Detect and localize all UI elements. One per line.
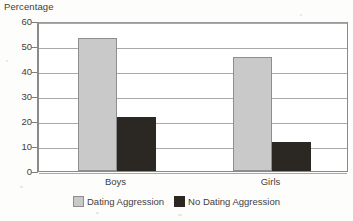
x-axis-label-girls: Girls — [261, 176, 281, 188]
plot-area — [38, 22, 348, 172]
gridline — [39, 23, 347, 24]
bar-boys-dating-aggression — [78, 38, 117, 172]
y-axis-tick-marks — [0, 22, 38, 172]
chart-legend: Dating AggressionNo Dating Aggression — [0, 196, 353, 207]
scan-speck — [178, 214, 182, 216]
legend-swatch-icon — [73, 196, 84, 207]
legend-label: Dating Aggression — [87, 196, 164, 207]
x-axis-label-boys: Boys — [105, 176, 126, 188]
bar-girls-dating-aggression — [233, 57, 272, 171]
legend-label: No Dating Aggression — [188, 196, 280, 207]
bar-chart-figure: Percentage 0102030405060 BoysGirls Datin… — [0, 0, 353, 221]
y-axis-title: Percentage — [4, 1, 54, 12]
x-axis-category-labels: BoysGirls — [38, 176, 348, 190]
gridline — [39, 173, 347, 174]
scan-speck — [300, 14, 302, 16]
legend-item-no-dating-aggression[interactable]: No Dating Aggression — [174, 196, 280, 207]
scan-speck — [96, 212, 99, 214]
scan-speck — [20, 186, 23, 188]
legend-item-dating-aggression[interactable]: Dating Aggression — [73, 196, 164, 207]
bar-boys-no-dating-aggression — [117, 117, 156, 171]
bar-girls-no-dating-aggression — [272, 142, 311, 171]
legend-swatch-icon — [174, 196, 185, 207]
